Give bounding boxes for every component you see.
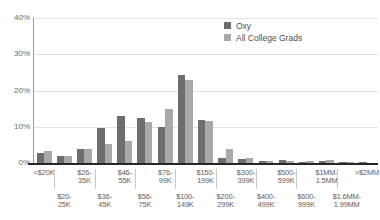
bar (37, 153, 44, 163)
bar (178, 75, 185, 163)
x-tick-label: $26-35K (61, 169, 107, 186)
y-tick-label-0: 0% (0, 158, 30, 167)
bar-group (135, 18, 155, 163)
bar (198, 120, 205, 164)
bar (185, 80, 192, 163)
x-tick-label: $200-299K (203, 193, 249, 210)
x-tick-label: <$20K (21, 169, 67, 177)
x-tick-label: $100-149K (162, 193, 208, 210)
bar (158, 127, 165, 163)
bar-group (155, 18, 175, 163)
x-axis-line (28, 163, 378, 165)
bar (205, 121, 212, 163)
bar-group (54, 18, 74, 163)
x-tick-label: $500-599K (263, 169, 309, 186)
x-tick-mark (95, 169, 96, 189)
legend-item-all-college-grads: All College Grads (224, 32, 302, 43)
legend-label-all-college-grads: All College Grads (236, 33, 302, 43)
x-tick-label: $300-399K (223, 169, 269, 186)
bar-group (357, 18, 377, 163)
bar (44, 151, 51, 163)
bar-group (337, 18, 357, 163)
bar (84, 149, 91, 163)
x-tick-label: $600-999K (283, 193, 329, 210)
y-tick-label-40: 40% (0, 13, 30, 22)
legend-item-oxy: Oxy (224, 20, 302, 31)
y-tick-label-30: 30% (0, 49, 30, 58)
bar-group (195, 18, 215, 163)
x-tick-label: $1.6MM-1.99MM (324, 193, 370, 210)
bar-group (175, 18, 195, 163)
x-tick-mark (337, 169, 338, 189)
x-tick-label: $400-499K (243, 193, 289, 210)
x-tick-label: $150-199K (183, 169, 229, 186)
bar (125, 141, 132, 163)
x-tick-mark (216, 169, 217, 189)
bar-group (115, 18, 135, 163)
y-tick-label-20: 20% (0, 86, 30, 95)
bar (117, 116, 124, 163)
bar (226, 149, 233, 163)
x-tick-mark (135, 169, 136, 189)
bar-group (316, 18, 336, 163)
bar (145, 122, 152, 163)
bar (165, 109, 172, 163)
bar-group (95, 18, 115, 163)
bar-groups (34, 18, 377, 163)
x-axis-tick-labels: <$20K$20-25K$26-35K$36-45K$46-55K$56-75K… (34, 167, 377, 220)
legend-label-oxy: Oxy (236, 21, 251, 31)
x-tick-label: $46-55K (102, 169, 148, 186)
chart-legend: Oxy All College Grads (224, 20, 302, 44)
bar-group (74, 18, 94, 163)
x-tick-mark (296, 169, 297, 189)
x-tick-label: >$2MM (344, 169, 380, 177)
bar (97, 128, 104, 163)
bar (64, 156, 71, 163)
x-tick-label: $56-75K (122, 193, 168, 210)
x-tick-mark (175, 169, 176, 189)
legend-swatch-icon-oxy (224, 22, 231, 29)
y-tick-label-10: 10% (0, 122, 30, 131)
bar (57, 156, 64, 163)
bar (77, 149, 84, 163)
bar (137, 118, 144, 163)
x-tick-label: $76-99K (142, 169, 188, 186)
income-distribution-bar-chart: 0%10%20%30%40% <$20K$20-25K$26-35K$36-45… (0, 0, 380, 220)
bar (105, 144, 112, 163)
x-tick-mark (54, 169, 55, 189)
x-tick-label: $20-25K (41, 193, 87, 210)
legend-swatch-icon-all-college-grads (224, 34, 231, 41)
x-tick-label: $1MM-1.5MM (304, 169, 350, 186)
x-tick-label: $36-45K (82, 193, 128, 210)
x-tick-mark (256, 169, 257, 189)
bar-group (34, 18, 54, 163)
